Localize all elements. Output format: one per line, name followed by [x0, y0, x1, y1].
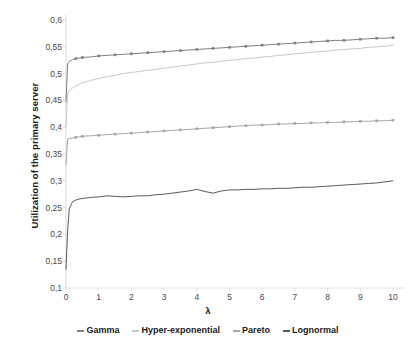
legend-item-hyper-exponential[interactable]: Hyper-exponential — [132, 326, 220, 335]
x-axis-tick-label: 4 — [185, 292, 209, 302]
series-marker — [196, 48, 199, 51]
series-marker — [310, 41, 313, 44]
x-axis-tick-label: 2 — [119, 292, 143, 302]
series-marker — [146, 51, 149, 54]
series-marker — [277, 123, 280, 126]
series-marker — [163, 50, 166, 53]
legend-swatch-icon — [77, 330, 84, 332]
x-axis-tick-label: 6 — [250, 292, 274, 302]
series-marker — [392, 119, 395, 122]
series-marker — [228, 46, 231, 49]
series-marker — [294, 122, 297, 125]
legend-swatch-icon — [283, 330, 290, 332]
y-axis-tick-label: 0,6 — [28, 15, 62, 25]
legend-swatch-icon — [233, 330, 240, 332]
series-marker — [212, 47, 215, 50]
x-axis-tick-label: 0 — [54, 292, 78, 302]
series-marker — [130, 52, 133, 55]
legend-swatch-icon — [132, 330, 139, 332]
series-marker — [277, 43, 280, 46]
series-marker — [261, 124, 264, 127]
series-marker — [375, 37, 378, 40]
series-marker — [146, 131, 149, 134]
legend-label: Gamma — [86, 326, 119, 335]
y-axis-tick-label: 0,45 — [28, 95, 62, 105]
x-axis-tick-label: 7 — [283, 292, 307, 302]
series-marker — [114, 54, 117, 57]
series-marker — [326, 40, 329, 43]
legend-item-gamma[interactable]: Gamma — [77, 326, 119, 335]
chart-legend: GammaHyper-exponentialParetoLognormal — [0, 326, 416, 335]
series-marker — [179, 129, 182, 132]
legend-label: Lognormal — [292, 326, 339, 335]
y-axis-tick-label: 0,3 — [28, 176, 62, 186]
x-axis-tick-label: 5 — [218, 292, 242, 302]
series-marker — [343, 121, 346, 124]
series-marker — [326, 121, 329, 124]
series-marker — [228, 125, 231, 128]
x-axis-tick-label: 1 — [87, 292, 111, 302]
series-marker — [75, 57, 78, 60]
x-axis-tick-label: 9 — [348, 292, 372, 302]
series-marker — [375, 119, 378, 122]
y-axis-tick-label: 0,4 — [28, 122, 62, 132]
legend-label: Pareto — [242, 326, 270, 335]
series-line-lognormal — [66, 181, 393, 269]
series-marker — [245, 45, 248, 48]
legend-item-pareto[interactable]: Pareto — [233, 326, 270, 335]
x-axis-tick-label: 3 — [152, 292, 176, 302]
y-axis-tick-label: 0,25 — [28, 203, 62, 213]
series-marker — [310, 122, 313, 125]
legend-item-lognormal[interactable]: Lognormal — [283, 326, 339, 335]
series-marker — [179, 49, 182, 52]
series-marker — [343, 39, 346, 42]
series-marker — [163, 130, 166, 133]
y-axis-tick-label: 0,2 — [28, 229, 62, 239]
series-marker — [130, 132, 133, 135]
series-marker — [294, 42, 297, 45]
series-marker — [75, 136, 78, 139]
y-axis-tick-label: 0,55 — [28, 42, 62, 52]
series-marker — [261, 44, 264, 47]
series-marker — [81, 56, 84, 59]
y-axis-tick-label: 0,5 — [28, 69, 62, 79]
legend-label: Hyper-exponential — [141, 326, 220, 335]
series-line-hyper-exponential — [66, 45, 393, 127]
x-axis-title: λ — [0, 305, 416, 316]
series-marker — [212, 126, 215, 129]
series-marker — [97, 55, 100, 58]
x-axis-tick-label: 8 — [316, 292, 340, 302]
series-marker — [114, 133, 117, 136]
chart-figure: Utilization of the primary server 0,10,1… — [0, 0, 416, 352]
y-axis-tick-label: 0,15 — [28, 256, 62, 266]
series-marker — [359, 120, 362, 123]
series-marker — [196, 128, 199, 131]
y-axis-tick-label: 0,35 — [28, 149, 62, 159]
series-marker — [81, 135, 84, 138]
series-marker — [392, 36, 395, 39]
x-axis-tick-label: 10 — [381, 292, 405, 302]
series-marker — [97, 134, 100, 137]
series-marker — [359, 38, 362, 41]
series-marker — [245, 124, 248, 127]
